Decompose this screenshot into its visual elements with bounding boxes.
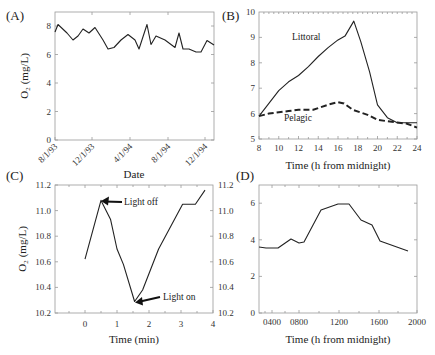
panel-b-x-title: Time (h from midnight) <box>285 159 390 172</box>
panel-b-label: (B) <box>222 8 239 23</box>
panel-b-y-ticks: 5 6 7 8 9 10 <box>246 7 417 144</box>
panel-c: (C) 10.2 10.4 10.6 10.8 11.0 11.2 0 1 2 … <box>6 168 216 346</box>
panel-c-y-title: O₂ (mg/L) <box>16 226 29 272</box>
panel-a-x-title: Date <box>124 168 145 180</box>
panel-b-xtick: 8 <box>257 143 262 153</box>
panel-b-xtick: 16 <box>334 143 344 153</box>
panel-a-xtick: 8/1/93 <box>36 141 60 165</box>
panel-a-ytick: 6 <box>47 50 52 60</box>
light-on-arrow-icon <box>135 297 160 306</box>
panel-a-y-ticks: 0 2 4 6 8 <box>47 21 215 145</box>
panel-a-ytick: 8 <box>47 21 52 31</box>
panel-b-ytick: 5 <box>251 134 256 144</box>
panel-d-xtick: 2000 <box>408 317 427 327</box>
panel-c-ytick: 11.2 <box>36 180 51 190</box>
panel-a: (A) 0 2 4 6 8 8/1/93 12/1/93 4/1/94 8/1/… <box>6 8 214 180</box>
panel-b-ytick: 7 <box>251 83 256 93</box>
panel-b-ytick: 6 <box>251 109 256 119</box>
light-off-label: Light off <box>124 197 159 207</box>
right-ytick: 10.2 <box>218 308 234 318</box>
panel-a-ytick: 4 <box>47 78 52 88</box>
panel-b-ytick: 8 <box>251 58 256 68</box>
panel-c-xtick: 1 <box>115 319 120 329</box>
panel-b-x-ticks: 8 10 12 14 16 18 20 22 24 <box>257 12 422 153</box>
panel-c-xtick: 0 <box>83 319 88 329</box>
panel-d-ytick: 0 <box>251 308 256 318</box>
panel-d-x-ticks: 0400 0800 1200 1600 2000 <box>263 185 427 327</box>
panel-c-xtick: 3 <box>179 319 184 329</box>
right-ytick: 10.8 <box>218 231 234 241</box>
light-off-arrow-icon <box>101 197 122 206</box>
panel-d-ytick: 4 <box>251 235 256 245</box>
panel-b-xtick: 18 <box>353 143 363 153</box>
panel-b-xtick: 20 <box>373 143 383 153</box>
panel-b-ytick: 10 <box>246 7 256 17</box>
panel-a-x-ticks: 8/1/93 12/1/93 4/1/94 8/1/94 12/1/94 <box>36 12 210 168</box>
light-on-label: Light on <box>163 292 196 302</box>
right-ytick: 10.4 <box>218 282 234 292</box>
panel-d-xtick: 1600 <box>370 317 389 327</box>
figure-canvas: (A) 0 2 4 6 8 8/1/93 12/1/93 4/1/94 8/1/… <box>0 0 435 355</box>
panel-d-xtick: 1200 <box>330 317 349 327</box>
panel-c-x-title: Time (min) <box>109 333 159 346</box>
panel-b-littoral-line <box>259 21 417 123</box>
panel-d-ytick: 6 <box>251 198 256 208</box>
panel-b-frame <box>259 12 417 139</box>
littoral-label: Littoral <box>292 32 321 42</box>
panel-d: (D) 0 2 4 6 0400 0800 1200 1600 2000 Tim… <box>236 168 427 346</box>
panel-c-xtick: 4 <box>211 319 216 329</box>
panel-c-xtick: 2 <box>147 319 152 329</box>
panel-d-ytick: 2 <box>251 271 256 281</box>
panel-b-xtick: 22 <box>393 143 402 153</box>
panel-d-label: (D) <box>236 168 254 183</box>
panel-a-y-title: O₂ (mg/L) <box>18 53 31 99</box>
panel-c-label: (C) <box>6 168 23 183</box>
panel-b-xtick: 12 <box>294 143 303 153</box>
panel-b-ytick: 9 <box>251 32 256 42</box>
panel-a-xtick: 12/1/94 <box>183 141 210 168</box>
panel-b: (B) 5 6 7 8 9 10 8 10 12 14 16 18 20 22 … <box>222 7 422 172</box>
panel-b-xtick: 10 <box>274 143 284 153</box>
panel-b-pelagic-line <box>259 102 417 128</box>
panel-d-xtick: 0400 <box>263 317 282 327</box>
panel-c-ytick: 10.6 <box>35 257 51 267</box>
panel-a-label: (A) <box>6 8 24 23</box>
panel-a-xtick: 4/1/94 <box>111 141 135 165</box>
panel-c-ytick: 11.0 <box>36 206 52 216</box>
right-ytick: 10.6 <box>218 257 234 267</box>
panel-d-xtick: 0800 <box>290 317 309 327</box>
panel-d-x-title: Time (h from midnight) <box>285 333 390 346</box>
pelagic-label: Pelagic <box>284 113 312 123</box>
panel-c-right-y-ticks: 10.2 10.4 10.6 10.8 11.0 11.2 <box>218 180 234 318</box>
panel-d-o2-line <box>259 204 408 251</box>
panel-b-xtick: 24 <box>413 143 423 153</box>
panel-a-xtick: 8/1/94 <box>149 141 173 165</box>
panel-a-frame <box>55 12 214 140</box>
right-ytick: 11.0 <box>218 206 234 216</box>
panel-c-ytick: 10.4 <box>35 282 51 292</box>
panel-d-y-ticks: 0 2 4 6 <box>251 198 418 318</box>
panel-b-xtick: 14 <box>314 143 324 153</box>
panel-a-xtick: 12/1/93 <box>70 141 97 168</box>
panel-c-ytick: 10.2 <box>35 308 51 318</box>
right-ytick: 11.2 <box>218 180 233 190</box>
panel-c-ytick: 10.8 <box>35 231 51 241</box>
panel-a-o2-line <box>55 25 214 53</box>
panel-a-ytick: 2 <box>47 107 52 117</box>
